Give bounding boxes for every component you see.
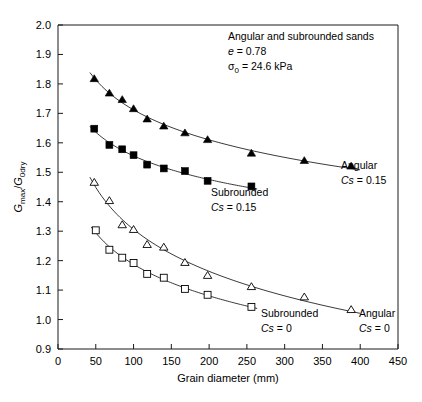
series-label-angular-cs015-line1: Angular	[341, 159, 378, 171]
data-point	[204, 291, 211, 298]
data-point	[92, 227, 99, 234]
x-axis-title: Grain diameter (mm)	[177, 372, 278, 384]
svg-text:Gmax/G0dry: Gmax/G0dry	[12, 162, 27, 213]
y-tick-label: 1.4	[36, 196, 51, 208]
cs-symbol-c: Cs	[359, 322, 373, 334]
y-tick-label: 2.0	[36, 19, 51, 31]
y-tick-label: 1.0	[36, 314, 51, 326]
annotation-sigma-subscript: 0	[234, 66, 239, 75]
x-tick-label: 200	[200, 355, 218, 367]
y-tick-label: 1.3	[36, 225, 51, 237]
data-point	[181, 285, 188, 292]
series-label-subrounded-cs015-line2: Cs= 0.15	[211, 201, 256, 213]
data-point	[130, 260, 137, 267]
data-point	[248, 303, 255, 310]
annotation-stress: σ0= 24.6 kPa	[228, 60, 293, 75]
x-tick-label: 350	[313, 355, 331, 367]
cs-symbol-a: Cs	[341, 174, 355, 186]
data-point	[203, 271, 211, 278]
series-label-angular-cs015-line2: Cs= 0.15	[341, 174, 386, 186]
chart-figure: 050100150200250300350400450 0.91.01.11.2…	[0, 0, 422, 402]
conditions-annotation: Angular and subrounded sands e = 0.78 σ0…	[228, 30, 374, 75]
series-markers-1	[91, 125, 255, 190]
page-caption-strip	[0, 388, 422, 402]
data-point	[144, 161, 151, 168]
y-title-sub-2: 0dry	[18, 162, 27, 178]
data-point	[160, 243, 168, 250]
y-tick-label: 1.2	[36, 255, 51, 267]
data-point	[90, 75, 98, 82]
data-point	[119, 146, 126, 153]
data-point	[181, 129, 189, 136]
fit-curve-1	[90, 126, 257, 189]
data-point	[91, 125, 98, 132]
series-label-subrounded-cs0: Subrounded Cs= 0	[261, 307, 318, 334]
y-title-sub-1: max	[18, 189, 27, 204]
data-point	[118, 96, 126, 103]
series-markers-3	[92, 227, 255, 310]
series-label-subrounded-cs015: Subrounded Cs= 0.15	[211, 186, 268, 213]
cs-value-c: = 0	[375, 322, 390, 334]
cs-value-d: = 0	[277, 322, 292, 334]
x-tick-label: 250	[238, 355, 256, 367]
data-point	[160, 274, 167, 281]
annotation-void-ratio: e = 0.78	[228, 45, 266, 57]
cs-value-b: = 0.15	[227, 201, 257, 213]
data-point	[106, 246, 113, 253]
series-label-subrounded-cs0-line1: Subrounded	[261, 307, 318, 319]
data-point	[106, 141, 113, 148]
series-label-subrounded-cs0-line2: Cs= 0	[261, 322, 292, 334]
data-point	[203, 136, 211, 143]
y-tick-label: 1.9	[36, 48, 51, 60]
data-point	[144, 270, 151, 277]
x-tick-label: 450	[389, 355, 407, 367]
x-tick-label: 0	[55, 355, 61, 367]
series-label-angular-cs0-line1: Angular	[359, 307, 396, 319]
annotation-stress-value: = 24.6 kPa	[242, 60, 293, 72]
y-axis-title: Gmax/G0dry	[12, 162, 27, 213]
scatter-plot: 050100150200250300350400450 0.91.01.11.2…	[0, 0, 422, 402]
cs-symbol-d: Cs	[261, 322, 275, 334]
y-tick-label: 1.7	[36, 107, 51, 119]
data-point	[160, 165, 167, 172]
x-tick-label: 300	[275, 355, 293, 367]
data-point	[300, 293, 308, 300]
y-tick-label: 0.9	[36, 343, 51, 355]
y-axis-ticks	[58, 25, 63, 349]
series-label-subrounded-cs015-line1: Subrounded	[211, 186, 268, 198]
fit-curve-3	[91, 227, 257, 308]
series-markers-2	[90, 178, 355, 312]
y-tick-label: 1.1	[36, 284, 51, 296]
x-tick-label: 400	[351, 355, 369, 367]
cs-symbol-b: Cs	[211, 201, 225, 213]
data-point	[347, 306, 355, 313]
data-point	[130, 152, 137, 159]
data-point	[181, 168, 188, 175]
annotation-sands-line: Angular and subrounded sands	[228, 30, 374, 42]
cs-value-a: = 0.15	[357, 174, 387, 186]
x-tick-label: 50	[90, 355, 102, 367]
series-label-angular-cs0-line2: Cs= 0	[359, 322, 390, 334]
series-label-angular-cs0: Angular Cs= 0	[359, 307, 396, 334]
x-tick-label: 150	[162, 355, 180, 367]
x-axis-tick-labels: 050100150200250300350400450	[55, 355, 407, 367]
y-tick-label: 1.5	[36, 166, 51, 178]
x-axis-ticks	[58, 344, 398, 349]
y-axis-tick-labels: 0.91.01.11.21.31.41.51.61.71.81.92.0	[36, 19, 51, 355]
series-inline-labels: Angular Cs= 0.15 Subrounded Cs= 0.15 Ang…	[211, 159, 396, 334]
data-point	[204, 177, 211, 184]
data-point	[247, 283, 255, 290]
y-tick-label: 1.6	[36, 137, 51, 149]
data-point	[119, 254, 126, 261]
series-label-angular-cs015: Angular Cs= 0.15	[341, 159, 386, 186]
y-tick-label: 1.8	[36, 78, 51, 90]
annotation-e-value: = 0.78	[234, 45, 267, 57]
x-tick-label: 100	[124, 355, 142, 367]
data-point	[105, 197, 113, 204]
